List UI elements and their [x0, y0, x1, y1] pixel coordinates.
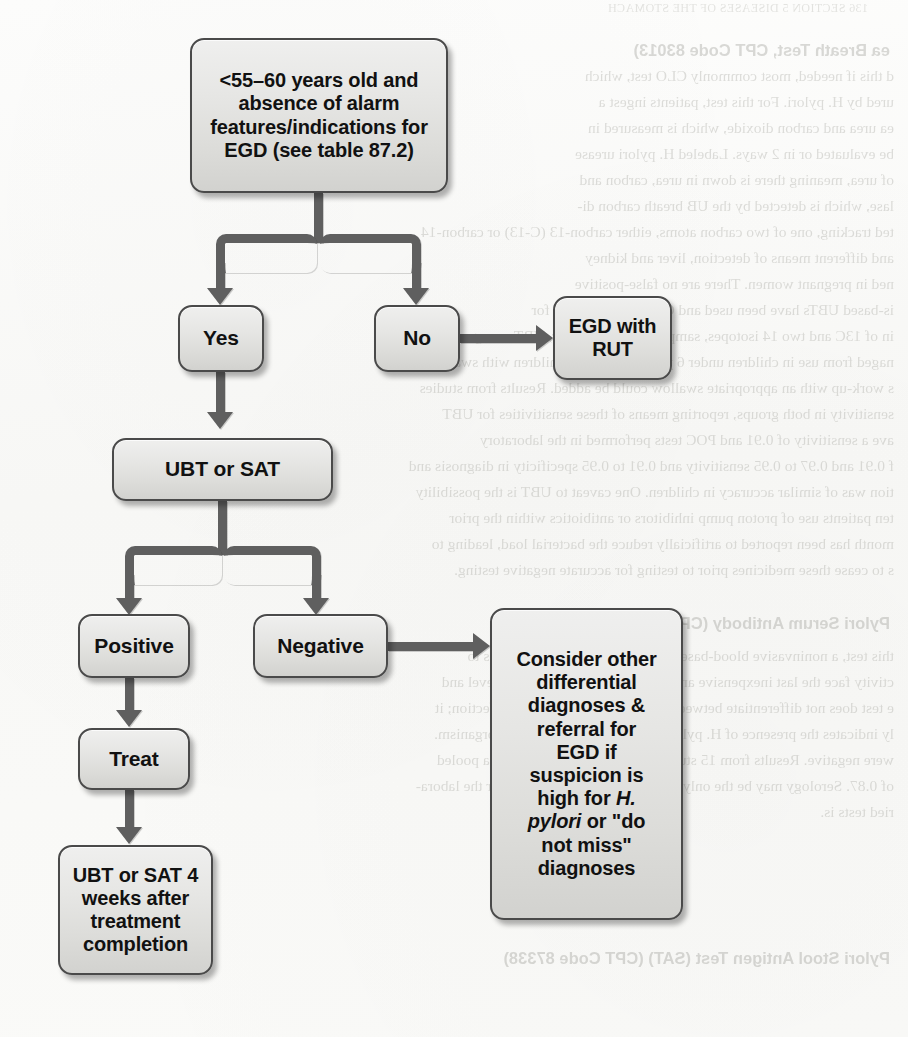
- arrowhead-to-yes-icon: [207, 288, 233, 305]
- node-positive-label: Positive: [86, 634, 182, 658]
- node-yes-label: Yes: [186, 326, 256, 350]
- edge-positive-to-treat-stem: [125, 678, 134, 711]
- node-ubt-or-sat-label: UBT or SAT: [120, 457, 325, 481]
- node-treat-label: Treat: [86, 747, 182, 771]
- italic-species: pylori: [528, 810, 582, 832]
- arrowhead-to-retest-icon: [116, 827, 142, 844]
- node-retest-after-treatment[interactable]: UBT or SAT 4 weeks after treatment compl…: [58, 845, 213, 975]
- arrowhead-to-ubt-sat-icon: [207, 412, 233, 429]
- node-consider-other-diagnoses-label: Consider other differential diagnoses & …: [498, 648, 675, 880]
- node-positive[interactable]: Positive: [78, 614, 190, 678]
- node-age-criteria[interactable]: <55–60 years old and absence of alarm fe…: [190, 38, 448, 193]
- edge-negative-to-consider-line: [388, 642, 476, 651]
- edge-split-to-positive-stem: [125, 574, 134, 600]
- node-treat[interactable]: Treat: [78, 728, 190, 790]
- node-consider-other-diagnoses[interactable]: Consider other differential diagnoses & …: [490, 608, 683, 920]
- node-negative[interactable]: Negative: [253, 614, 388, 678]
- arrowhead-to-positive-icon: [116, 598, 142, 615]
- arrowhead-to-treat-icon: [116, 710, 142, 727]
- node-ubt-or-sat[interactable]: UBT or SAT: [112, 438, 333, 501]
- edge-split-to-yes-stem: [216, 262, 225, 290]
- node-age-criteria-label: <55–60 years old and absence of alarm fe…: [198, 69, 440, 162]
- node-no-label: No: [382, 326, 452, 350]
- edge-yes-to-ubt-stem: [216, 372, 225, 413]
- edge-split-to-negative-stem: [312, 574, 321, 600]
- edge-no-to-egd-line: [460, 334, 539, 343]
- edge-criteria-stem: [314, 193, 323, 243]
- arrowhead-to-consider-icon: [473, 633, 490, 659]
- node-yes[interactable]: Yes: [178, 305, 264, 372]
- edge-treat-to-retest-stem: [125, 790, 134, 828]
- arrowhead-to-no-icon: [403, 288, 429, 305]
- flowchart: <55–60 years old and absence of alarm fe…: [0, 0, 908, 1037]
- node-no[interactable]: No: [374, 305, 460, 372]
- edge-split-to-no-stem: [412, 262, 421, 290]
- edge-pn-split-left-corner: [125, 546, 222, 585]
- node-egd-with-rut[interactable]: EGD with RUT: [553, 296, 672, 380]
- edge-ubt-stem: [218, 501, 227, 555]
- node-retest-after-treatment-label: UBT or SAT 4 weeks after treatment compl…: [66, 864, 205, 957]
- edge-split-left-corner: [216, 234, 317, 273]
- node-egd-with-rut-label: EGD with RUT: [561, 315, 664, 361]
- arrowhead-to-egd-rut-icon: [536, 325, 553, 351]
- node-negative-label: Negative: [261, 634, 380, 658]
- edge-split-right-corner: [320, 234, 421, 273]
- arrowhead-to-negative-icon: [303, 598, 329, 615]
- edge-pn-split-right-corner: [224, 546, 321, 585]
- italic-genus: H.: [616, 787, 636, 809]
